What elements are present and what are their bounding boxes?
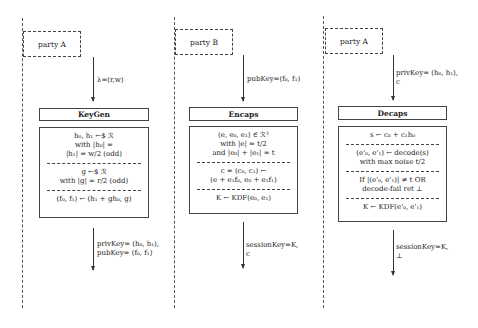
dashed-separator bbox=[197, 189, 290, 190]
encaps-title: Encaps bbox=[228, 110, 258, 119]
encaps-section-3: K ← KDF(e₀, e₁) bbox=[193, 193, 294, 204]
encaps-content-box: (e, e₀, e₁) ∈ ℛ³ with |e| = t/2 and |e₀|… bbox=[189, 126, 298, 214]
arrow-output-decaps bbox=[393, 230, 394, 275]
decaps-content-box: s ← c₀ + c₁h₀ (e'₀, e'₁) ← decode(s) wit… bbox=[338, 126, 447, 222]
encaps-output-label: sessionKey=K, c bbox=[246, 241, 298, 259]
encaps-input-label: pubKey=(f₀, f₁) bbox=[247, 75, 300, 84]
dashed-separator bbox=[346, 144, 439, 145]
keygen-section-3: (f₀, f₁) ← (h₁ + gh₀, g) bbox=[43, 194, 145, 205]
decaps-title: Decaps bbox=[377, 109, 407, 118]
dashed-separator bbox=[47, 163, 141, 164]
decaps-section-1: s ← c₀ + c₁h₀ bbox=[342, 130, 443, 141]
party-label: party B bbox=[190, 38, 218, 47]
decaps-output-label: sessionKey=K, ⊥ bbox=[396, 243, 448, 261]
keygen-content-box: h₀, h₁ ←$ ℛ with |h₀| = |h₁| = w/2 (odd)… bbox=[39, 127, 149, 218]
decaps-section-3: If |(e'₀, e'₁)| ≠ t OR decode-fail ret ⊥ bbox=[342, 175, 443, 195]
decaps-section-2: (e'₀, e'₁) ← decode(s) with max noise t/… bbox=[342, 148, 443, 168]
decaps-input-label: privKey= (h₀, h₁), c bbox=[396, 69, 458, 87]
keygen-output-label: privKey= (h₀, h₁), pubKey= (f₀, f₁) bbox=[97, 240, 159, 258]
keygen-input-label: λ=(r,w) bbox=[97, 76, 124, 85]
lifeline-party-a-second bbox=[323, 16, 324, 308]
arrow-output-encaps bbox=[243, 222, 244, 268]
arrow-input-keygen bbox=[93, 57, 94, 101]
party-label: party A bbox=[340, 37, 368, 46]
dashed-separator bbox=[197, 162, 290, 163]
encaps-section-2: c = (c₀, c₁) ← (e + e₁f₀, e₀ + e₁f₁) bbox=[193, 166, 294, 186]
party-a-second-box: party A bbox=[325, 28, 383, 54]
arrow-output-keygen bbox=[93, 228, 94, 270]
decaps-title-box: Decaps bbox=[338, 106, 447, 120]
party-b-box: party B bbox=[175, 29, 233, 55]
encaps-title-box: Encaps bbox=[189, 107, 298, 121]
party-label: party A bbox=[38, 40, 66, 49]
party-a-box: party A bbox=[23, 31, 81, 57]
arrow-input-encaps bbox=[243, 55, 244, 101]
decaps-section-4: K ← KDF(e'₀, e'₁) bbox=[342, 202, 443, 213]
arrow-input-decaps bbox=[393, 55, 394, 100]
lifeline-party-b bbox=[174, 17, 175, 308]
dashed-separator bbox=[346, 198, 439, 199]
keygen-title: KeyGen bbox=[78, 110, 110, 119]
encaps-section-1: (e, e₀, e₁) ∈ ℛ³ with |e| = t/2 and |e₀|… bbox=[193, 130, 294, 159]
keygen-section-1: h₀, h₁ ←$ ℛ with |h₀| = |h₁| = w/2 (odd) bbox=[43, 131, 145, 160]
dashed-separator bbox=[346, 171, 439, 172]
keygen-title-box: KeyGen bbox=[39, 108, 149, 121]
dashed-separator bbox=[47, 190, 141, 191]
keygen-section-2: g ←$ ℛ with |g| ≈ r/2 (odd) bbox=[43, 167, 145, 187]
lifeline-party-a bbox=[22, 18, 23, 308]
